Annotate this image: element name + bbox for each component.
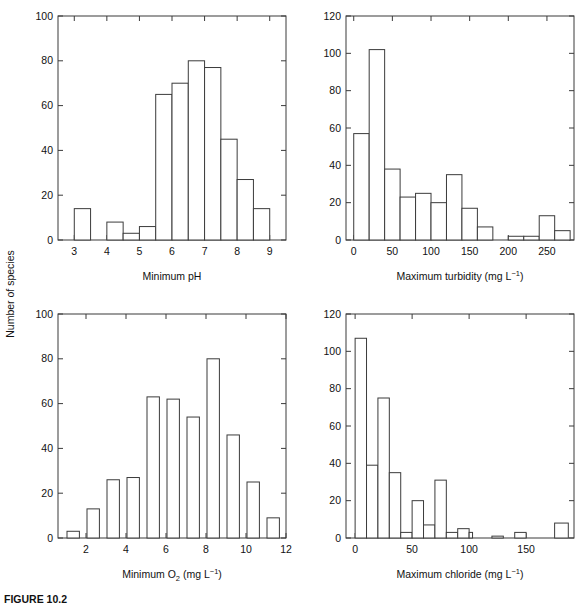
y-tick-label: 60 — [41, 397, 53, 409]
y-tick-label: 80 — [41, 352, 53, 364]
bar — [147, 397, 159, 538]
figure-container: Number of species 0204060801003456789Min… — [0, 0, 584, 605]
bar — [107, 480, 119, 538]
plot-area-maximum-turbidity: 020406080100120050100150200250Maximum tu… — [323, 10, 574, 282]
bars-maximum-chloride — [355, 338, 568, 538]
bar — [267, 518, 279, 538]
x-tick-label: 4 — [104, 245, 110, 257]
bar — [469, 532, 472, 538]
panel-maximum-chloride: 020406080100120050100150Maximum chloride… — [310, 304, 580, 596]
bar — [237, 180, 253, 240]
x-tick-label: 10 — [240, 543, 252, 555]
y-tick-label: 0 — [47, 532, 53, 544]
bar — [355, 338, 366, 538]
x-tick-label: 100 — [422, 245, 440, 257]
y-tick-label: 100 — [323, 47, 341, 59]
bar — [462, 208, 477, 240]
y-tick-label: 60 — [329, 122, 341, 134]
plot-area-minimum-o2: 02040608010024681012Minimum O2 (mg L−1) — [35, 308, 292, 583]
x-tick-label: 12 — [280, 543, 292, 555]
plot-area-maximum-chloride: 020406080100120050100150Maximum chloride… — [323, 308, 574, 580]
bar — [435, 480, 446, 538]
bar — [139, 227, 155, 240]
shared-y-axis-label: Number of species — [2, 228, 18, 368]
y-tick-label: 40 — [41, 144, 53, 156]
bar — [515, 532, 526, 538]
plot-area-minimum-ph: 0204060801003456789Minimum pH — [35, 10, 286, 282]
x-tick-label: 9 — [267, 245, 273, 257]
y-tick-label: 60 — [329, 420, 341, 432]
bar — [253, 209, 269, 240]
panel-minimum-o2: 02040608010024681012Minimum O2 (mg L−1) — [22, 304, 292, 596]
panel-maximum-turbidity: 020406080100120050100150200250Maximum tu… — [310, 6, 580, 298]
x-axis-title: Maximum chloride (mg L−1) — [396, 567, 523, 580]
x-axis-title: Maximum turbidity (mg L−1) — [396, 269, 523, 282]
y-tick-label: 40 — [41, 442, 53, 454]
x-tick-label: 4 — [123, 543, 129, 555]
bar — [221, 139, 237, 240]
bar — [367, 465, 378, 538]
bar — [446, 532, 457, 538]
bars-minimum-o2 — [67, 359, 279, 538]
x-tick-label: 7 — [202, 245, 208, 257]
bar — [87, 509, 99, 538]
bar — [412, 501, 423, 538]
y-tick-label: 80 — [41, 54, 53, 66]
bar — [123, 233, 139, 240]
figure-caption: FIGURE 10.2 — [4, 593, 67, 605]
y-tick-label: 40 — [329, 457, 341, 469]
bar — [187, 417, 199, 538]
x-tick-label: 3 — [71, 245, 77, 257]
bar — [401, 532, 412, 538]
bar — [167, 399, 179, 538]
bar — [539, 216, 554, 240]
bar — [446, 175, 461, 240]
bar — [378, 398, 389, 538]
bar — [205, 68, 221, 240]
y-tick-label: 60 — [41, 99, 53, 111]
bar — [227, 435, 239, 538]
x-tick-label: 2 — [83, 543, 89, 555]
y-tick-label: 20 — [41, 189, 53, 201]
x-tick-label: 100 — [460, 543, 478, 555]
y-tick-label: 100 — [35, 308, 53, 320]
x-tick-label: 8 — [203, 543, 209, 555]
panel-minimum-ph: 0204060801003456789Minimum pH — [22, 6, 292, 298]
x-tick-label: 0 — [352, 543, 358, 555]
bar — [458, 529, 469, 538]
bar — [369, 50, 384, 240]
bar — [508, 236, 523, 240]
bar — [188, 61, 204, 240]
x-tick-label: 200 — [500, 245, 518, 257]
bar — [524, 236, 539, 240]
bar — [247, 482, 259, 538]
bar — [555, 523, 569, 538]
bar — [424, 525, 435, 538]
histogram-maximum-chloride: 020406080100120050100150Maximum chloride… — [310, 304, 580, 596]
bar — [431, 203, 446, 240]
y-tick-label: 40 — [329, 159, 341, 171]
y-tick-label: 80 — [329, 382, 341, 394]
x-tick-label: 5 — [137, 245, 143, 257]
bar — [400, 197, 415, 240]
bar — [354, 134, 369, 240]
bar — [385, 169, 400, 240]
bar — [172, 83, 188, 240]
y-tick-label: 100 — [35, 10, 53, 22]
y-axis-label-text: Number of species — [4, 224, 16, 364]
y-tick-label: 20 — [329, 196, 341, 208]
y-tick-label: 20 — [41, 487, 53, 499]
bar — [477, 227, 492, 240]
y-tick-label: 20 — [329, 494, 341, 506]
y-tick-label: 0 — [335, 234, 341, 246]
x-tick-label: 50 — [406, 543, 418, 555]
bar — [416, 193, 431, 240]
x-tick-label: 0 — [351, 245, 357, 257]
x-tick-label: 150 — [461, 245, 479, 257]
bars-maximum-turbidity — [354, 50, 570, 240]
y-tick-label: 0 — [47, 234, 53, 246]
bar — [555, 231, 570, 240]
bar — [107, 222, 123, 240]
y-tick-label: 120 — [323, 308, 341, 320]
x-tick-label: 50 — [387, 245, 399, 257]
